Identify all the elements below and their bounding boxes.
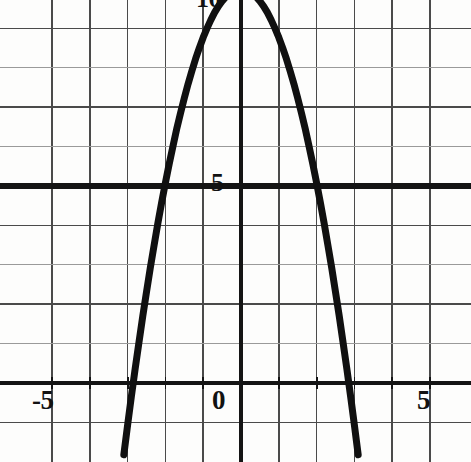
x-axis-tick-label-plus5: 5 (417, 387, 430, 414)
y-axis-tick-label-ten: 10 (196, 0, 221, 12)
y-axis-tick-label-five: 5 (211, 170, 224, 196)
horizontal-gridlines (0, 0, 471, 422)
plot-area (0, 0, 471, 462)
x-axis-tick-label-zero: 0 (212, 387, 225, 414)
axis-lines (0, 0, 471, 462)
x-axis-tick-label-minus5: -5 (32, 387, 54, 414)
parabola-graph-figure: -5 0 5 5 10 (0, 0, 471, 462)
